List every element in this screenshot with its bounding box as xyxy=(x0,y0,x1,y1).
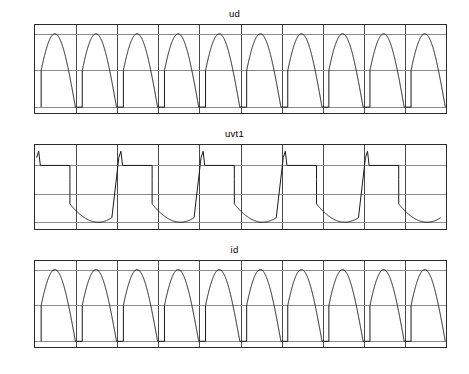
plot-area-uvt1: 0-50-100 xyxy=(34,144,447,230)
waveform-figure: ud 050100 uvt1 0-50-100 id 00.010.020.03… xyxy=(0,0,469,374)
plot-title-uvt1: uvt1 xyxy=(0,128,469,139)
plot-panel-ud: ud 050100 xyxy=(0,0,469,122)
plot-title-id: id xyxy=(0,244,469,255)
waveform-trace-id xyxy=(35,261,446,347)
plot-panel-id: id 00.010.020.030.040.050.060.070.080.09… xyxy=(0,240,469,374)
plot-title-ud: ud xyxy=(0,8,469,19)
waveform-trace-ud xyxy=(35,25,446,113)
waveform-trace-uvt1 xyxy=(35,145,446,229)
plot-area-ud: 050100 xyxy=(34,24,447,114)
plot-area-id: 00.010.020.030.040.050.060.070.080.090.1… xyxy=(34,260,447,348)
plot-panel-uvt1: uvt1 0-50-100 xyxy=(0,122,469,240)
